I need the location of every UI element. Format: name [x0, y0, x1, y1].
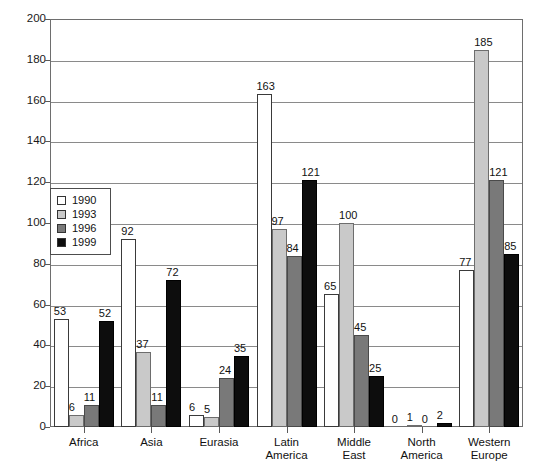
bar-rect [437, 423, 452, 427]
legend-item[interactable]: 1993 [57, 208, 104, 221]
bar-value-label: 35 [234, 343, 246, 354]
bar-groups-layer: 5361152923711726524351639784121651004525… [50, 19, 523, 427]
bar[interactable]: 185 [474, 19, 489, 427]
bar-rect [354, 335, 369, 427]
y-tick-label: 60 [6, 299, 46, 311]
bar[interactable]: 11 [151, 19, 166, 427]
bar-value-label: 65 [324, 281, 336, 292]
bar[interactable]: 0 [422, 19, 437, 427]
bar-value-label: 45 [354, 322, 366, 333]
bar[interactable]: 97 [272, 19, 287, 427]
bar-group: 652435 [189, 19, 249, 427]
bar-value-label: 37 [136, 339, 148, 350]
y-tick-mark [45, 427, 50, 428]
bar[interactable]: 24 [219, 19, 234, 427]
bar-rect [136, 352, 151, 427]
bar-group: 1639784121 [257, 19, 317, 427]
y-tick-label: 180 [6, 54, 46, 66]
legend-item[interactable]: 1996 [57, 222, 104, 235]
bar[interactable]: 25 [369, 19, 384, 427]
bar-value-label: 97 [272, 216, 284, 227]
bar[interactable]: 2 [437, 19, 452, 427]
bar[interactable]: 72 [166, 19, 181, 427]
bar[interactable]: 45 [354, 19, 369, 427]
bar-rect [257, 94, 272, 427]
chart-legend: 1990199319961999 [50, 188, 111, 255]
bar-value-label: 85 [504, 241, 516, 252]
bar-value-label: 2 [437, 410, 443, 421]
bar[interactable]: 85 [504, 19, 519, 427]
legend-swatch-icon [57, 196, 66, 205]
y-tick-label: 80 [6, 258, 46, 270]
bar-value-label: 121 [302, 167, 320, 178]
x-axis-label: Asia [118, 436, 186, 449]
legend-item[interactable]: 1990 [57, 194, 104, 207]
bar-value-label: 53 [54, 306, 66, 317]
x-axis-label: Eurasia [185, 436, 253, 449]
y-tick-label: 120 [6, 176, 46, 188]
bar-rect [302, 180, 317, 427]
bar[interactable]: 163 [257, 19, 272, 427]
bar[interactable]: 84 [287, 19, 302, 427]
bar[interactable]: 37 [136, 19, 151, 427]
bar-group: 0102 [392, 19, 452, 427]
x-axis-label: Middle East [320, 436, 388, 462]
bar-value-label: 84 [287, 243, 299, 254]
bar-rect [99, 321, 114, 427]
bar[interactable]: 65 [324, 19, 339, 427]
bar-rect [287, 256, 302, 427]
y-tick-label: 160 [6, 95, 46, 107]
bar[interactable]: 121 [302, 19, 317, 427]
bar-rect [369, 376, 384, 427]
x-tick-mark [354, 427, 355, 433]
bar-rect [407, 425, 422, 427]
x-axis-label: Western Europe [455, 436, 523, 462]
x-tick-mark [489, 427, 490, 433]
legend-swatch-icon [57, 238, 66, 247]
bar-chart: 020406080100120140160180200 536115292371… [0, 0, 541, 469]
x-axis-label: North America [388, 436, 456, 462]
bar-value-label: 11 [151, 392, 162, 403]
bar-rect [339, 223, 354, 427]
bar[interactable]: 121 [489, 19, 504, 427]
bar-group: 651004525 [324, 19, 384, 427]
y-tick-label: 20 [6, 380, 46, 392]
bar[interactable]: 100 [339, 19, 354, 427]
bar-value-label: 0 [392, 414, 398, 425]
legend-swatch-icon [57, 210, 66, 219]
bar-value-label: 24 [219, 365, 231, 376]
bar-value-label: 52 [99, 308, 111, 319]
bar-rect [166, 280, 181, 427]
legend-swatch-icon [57, 224, 66, 233]
bar-value-label: 6 [189, 402, 195, 413]
bar[interactable]: 77 [459, 19, 474, 427]
bar[interactable]: 35 [234, 19, 249, 427]
x-axis-label: Latin America [253, 436, 321, 462]
bar-rect [234, 356, 249, 427]
y-tick-label: 100 [6, 217, 46, 229]
bar-rect [272, 229, 287, 427]
bar[interactable]: 1 [407, 19, 422, 427]
bar[interactable]: 5 [204, 19, 219, 427]
bar-rect [204, 417, 219, 427]
bar-rect [84, 405, 99, 427]
bar-group: 92371172 [121, 19, 181, 427]
bar[interactable]: 0 [392, 19, 407, 427]
bar-rect [489, 180, 504, 427]
bar-rect [219, 378, 234, 427]
bar-rect [151, 405, 166, 427]
x-tick-mark [287, 427, 288, 433]
bar-rect [121, 239, 136, 427]
bar-rect [504, 254, 519, 427]
bar-value-label: 11 [84, 392, 95, 403]
legend-item[interactable]: 1999 [57, 236, 104, 249]
bar-value-label: 5 [204, 404, 210, 415]
bar[interactable]: 6 [189, 19, 204, 427]
bar[interactable]: 92 [121, 19, 136, 427]
bar-rect [474, 50, 489, 427]
bar-rect [69, 415, 84, 427]
bar-value-label: 6 [69, 402, 75, 413]
bar-rect [54, 319, 69, 427]
x-tick-mark [219, 427, 220, 433]
bar-value-label: 1 [407, 412, 413, 423]
